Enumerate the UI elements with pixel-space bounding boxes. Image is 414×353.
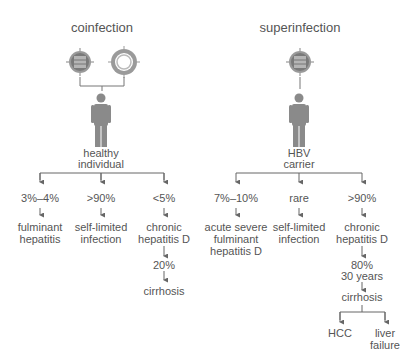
coinfection-title: coinfection (71, 21, 133, 35)
branch-outcome: fulminant (18, 221, 63, 233)
final-outcome-liver-failure: failure (370, 339, 400, 351)
hdv-virus-icon (66, 48, 94, 76)
hdv-virus-icon-super (286, 48, 314, 76)
hbv-virus-icon (108, 46, 140, 78)
branch-pct: rare (289, 192, 309, 204)
branch-outcome: hepatitis (20, 233, 61, 245)
branch-outcome: fulminant (214, 233, 259, 245)
branch-outcome: self-limited (75, 221, 128, 233)
progression-time: 30 years (341, 270, 383, 282)
host-label: carrier (283, 158, 314, 170)
branch-outcome: acute severe (205, 221, 268, 233)
superinfection-title: superinfection (260, 21, 341, 35)
branch-outcome: hepatitis D (138, 233, 190, 245)
progression-outcome: cirrhosis (342, 291, 383, 303)
final-outcome-hcc: HCC (328, 327, 352, 339)
branch-outcome: chronic (344, 221, 379, 233)
branch-outcome: infection (81, 233, 122, 245)
branch-outcome: hepatitis D (210, 245, 262, 257)
branch-pct: <5% (153, 192, 175, 204)
progression-outcome: cirrhosis (144, 285, 185, 297)
branch-outcome: hepatitis D (336, 233, 388, 245)
branch-pct: 7%–10% (214, 192, 258, 204)
branch-pct: >90% (87, 192, 115, 204)
host-label: individual (78, 158, 124, 170)
branch-outcome: infection (279, 233, 320, 245)
hbv-carrier-icon (289, 94, 309, 148)
progression-pct: 20% (153, 259, 175, 271)
branch-pct: >90% (348, 192, 376, 204)
branch-outcome: chronic (146, 221, 181, 233)
final-outcome-liver-failure: liver (375, 327, 395, 339)
branch-pct: 3%–4% (21, 192, 59, 204)
healthy-individual-icon (91, 94, 111, 148)
branch-outcome: self-limited (273, 221, 326, 233)
